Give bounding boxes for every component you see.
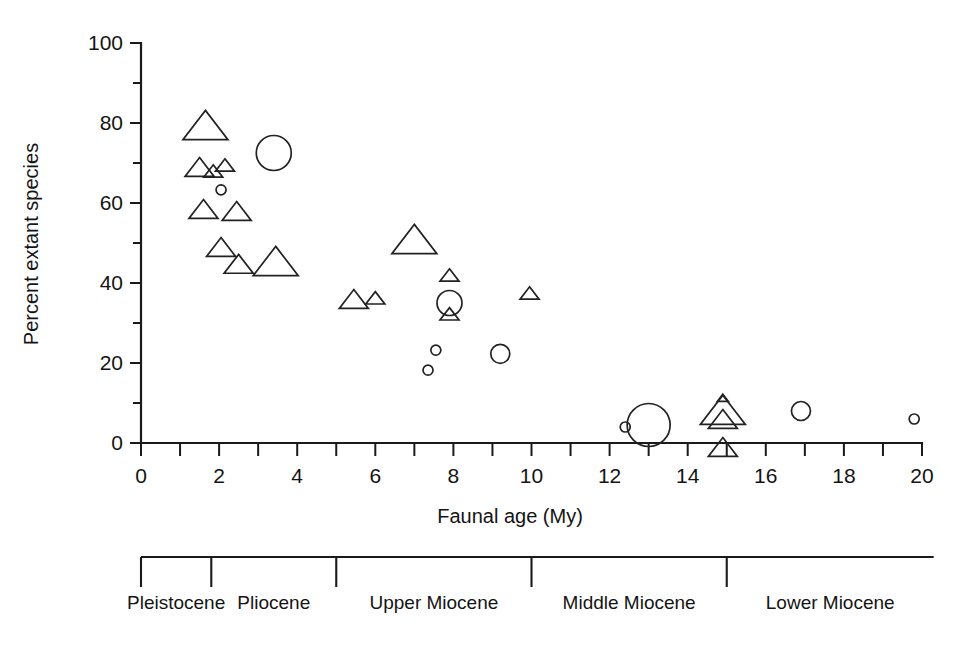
data-point-triangle bbox=[392, 224, 437, 253]
x-tick-label: 12 bbox=[598, 464, 621, 487]
y-tick-label: 40 bbox=[100, 271, 123, 294]
x-tick-label: 14 bbox=[676, 464, 700, 487]
scatter-chart: Percent extant species Faunal age (My) 0… bbox=[0, 0, 972, 659]
data-point-triangle bbox=[207, 238, 236, 257]
data-point-triangle bbox=[708, 438, 737, 457]
data-point-circle bbox=[256, 136, 291, 171]
data-point-circle bbox=[491, 344, 510, 363]
timescale-epoch-label-2: Pliocene bbox=[237, 592, 310, 613]
data-point-triangle bbox=[366, 292, 385, 304]
data-point-triangle bbox=[189, 200, 218, 219]
data-point-circle bbox=[216, 185, 226, 195]
y-tick-label: 20 bbox=[100, 351, 123, 374]
figure-container: Percent extant species Faunal age (My) 0… bbox=[0, 0, 972, 659]
y-tick-label: 60 bbox=[100, 191, 123, 214]
x-tick-label: 18 bbox=[832, 464, 855, 487]
y-axis-title: Percent extant species bbox=[20, 143, 42, 345]
timescale-epoch-label-5: Lower Miocene bbox=[766, 592, 895, 613]
x-tick-label: 8 bbox=[448, 464, 460, 487]
data-point-circle bbox=[423, 365, 433, 375]
data-point-triangle bbox=[520, 287, 539, 299]
data-point-triangle bbox=[222, 202, 251, 221]
y-tick-label: 100 bbox=[88, 31, 123, 54]
y-tick-label: 80 bbox=[100, 111, 123, 134]
y-axis-ticks bbox=[130, 43, 141, 443]
timescale-epoch-labels: PleistocenePlioceneUpper MioceneMiddle M… bbox=[127, 592, 895, 613]
x-tick-label: 6 bbox=[369, 464, 381, 487]
x-tick-label: 4 bbox=[291, 464, 303, 487]
x-tick-label: 16 bbox=[754, 464, 777, 487]
x-tick-label: 0 bbox=[135, 464, 147, 487]
data-point-circle bbox=[791, 402, 810, 421]
data-markers-triangle bbox=[183, 110, 745, 456]
x-axis-tick-labels: 02468101214161820 bbox=[135, 464, 934, 487]
data-point-triangle bbox=[215, 159, 234, 171]
data-point-triangle bbox=[708, 410, 737, 429]
data-point-triangle bbox=[183, 110, 228, 139]
x-tick-label: 2 bbox=[213, 464, 225, 487]
timescale-epoch-label-1: Pleistocene bbox=[127, 592, 225, 613]
x-tick-label: 20 bbox=[910, 464, 933, 487]
x-tick-label: 10 bbox=[520, 464, 543, 487]
timescale-epoch-label-4: Middle Miocene bbox=[563, 592, 696, 613]
x-axis-ticks bbox=[141, 443, 922, 456]
x-axis-title: Faunal age (My) bbox=[437, 505, 583, 527]
data-point-triangle bbox=[185, 158, 214, 177]
data-point-circle bbox=[909, 414, 919, 424]
data-point-triangle bbox=[339, 290, 368, 309]
data-point-circle bbox=[431, 345, 441, 355]
data-point-triangle bbox=[253, 246, 298, 275]
timescale-bar bbox=[141, 557, 934, 587]
data-point-triangle bbox=[440, 269, 459, 281]
y-axis-tick-labels: 020406080100 bbox=[88, 31, 123, 454]
data-point-circle bbox=[627, 404, 670, 447]
y-tick-label: 0 bbox=[111, 431, 123, 454]
data-markers-circle bbox=[216, 136, 919, 447]
timescale-epoch-label-3: Upper Miocene bbox=[369, 592, 498, 613]
data-point-circle bbox=[437, 291, 462, 316]
